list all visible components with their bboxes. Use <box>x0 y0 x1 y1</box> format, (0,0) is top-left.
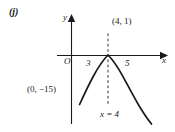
origin-label: O <box>64 57 71 66</box>
y-axis-label: y <box>63 13 67 22</box>
axis-of-symmetry-label: x = 4 <box>100 110 119 119</box>
y-axis-arrowhead <box>68 14 75 22</box>
x-tick-label-5: 5 <box>125 59 130 68</box>
vertex-label: (4, 1) <box>112 17 132 26</box>
x-tick-label-3: 3 <box>86 59 91 68</box>
x-axis-label: x <box>162 56 166 65</box>
y-intercept-label: (0, −15) <box>27 85 56 94</box>
parabola-figure: (j) (4, 1) (0, −15) 3 5 O y x x = 4 <box>0 0 175 132</box>
